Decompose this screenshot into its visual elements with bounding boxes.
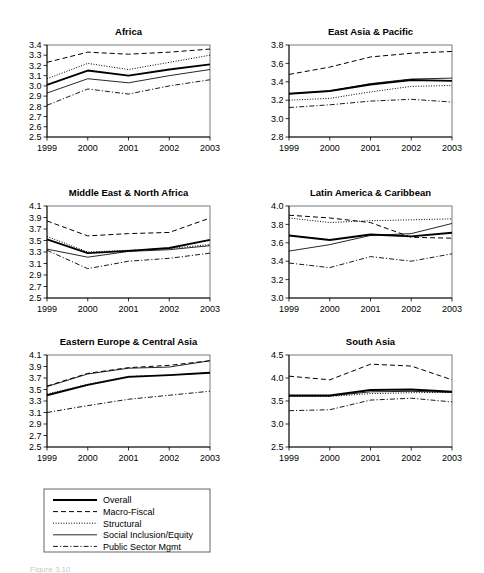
x-tick-label: 1999	[37, 453, 57, 463]
y-tick-label: 3.8	[271, 40, 284, 50]
y-tick-label: 3.7	[29, 373, 42, 383]
plot-frame	[289, 206, 452, 298]
x-tick-label: 2003	[200, 453, 220, 463]
y-tick-label: 4.0	[271, 373, 284, 383]
plot-frame	[47, 355, 210, 447]
y-tick-label: 2.9	[29, 419, 42, 429]
x-tick-label: 2000	[320, 304, 340, 314]
y-tick-label: 2.7	[29, 112, 42, 122]
chart-panel-3: Middle East & North Africa2.52.72.93.13.…	[29, 187, 220, 314]
y-tick-label: 3.2	[271, 275, 284, 285]
panel-title: Africa	[115, 26, 143, 37]
plot-frame	[47, 45, 210, 137]
y-tick-label: 2.7	[29, 431, 42, 441]
series-public-sector-mgmt	[289, 398, 452, 410]
chart-panel-1: Africa2.52.62.72.82.93.03.13.23.33.41999…	[29, 26, 220, 153]
legend-label-4: Social Inclusion/Equity	[103, 530, 194, 540]
y-tick-label: 3.6	[271, 59, 284, 69]
chart-panel-5: Eastern Europe & Central Asia2.52.72.93.…	[29, 336, 220, 463]
y-tick-label: 2.5	[29, 132, 42, 142]
y-tick-label: 4.0	[271, 201, 284, 211]
x-tick-label: 2001	[118, 143, 138, 153]
legend-label-5: Public Sector Mgmt	[103, 542, 182, 552]
y-tick-label: 3.2	[271, 95, 284, 105]
y-tick-label: 3.1	[29, 259, 42, 269]
y-tick-label: 3.3	[29, 50, 42, 60]
y-tick-label: 3.5	[271, 396, 284, 406]
series-macro-fiscal	[47, 49, 210, 62]
x-tick-label: 2000	[320, 453, 340, 463]
y-tick-label: 3.5	[29, 236, 42, 246]
y-tick-label: 4.1	[29, 201, 42, 211]
y-tick-label: 2.9	[29, 91, 42, 101]
series-overall	[289, 233, 452, 240]
y-tick-label: 2.8	[271, 132, 284, 142]
x-tick-label: 2002	[401, 453, 421, 463]
x-tick-label: 2001	[118, 453, 138, 463]
y-tick-label: 3.0	[271, 293, 284, 303]
x-tick-label: 1999	[279, 304, 299, 314]
panel-title: Middle East & North Africa	[69, 187, 189, 198]
x-tick-label: 2001	[118, 304, 138, 314]
figure-caption: Figure 3.10	[30, 565, 71, 573]
y-tick-label: 3.5	[29, 385, 42, 395]
series-macro-fiscal	[47, 218, 210, 236]
y-tick-label: 2.5	[29, 293, 42, 303]
y-tick-label: 3.3	[29, 247, 42, 257]
y-tick-label: 3.6	[271, 238, 284, 248]
x-tick-label: 2002	[159, 453, 179, 463]
x-tick-label: 2000	[78, 304, 98, 314]
y-tick-label: 3.7	[29, 224, 42, 234]
panel-title: Latin America & Caribbean	[310, 187, 431, 198]
y-tick-label: 3.4	[271, 256, 284, 266]
panel-title: Eastern Europe & Central Asia	[60, 336, 198, 347]
x-tick-label: 2001	[360, 143, 380, 153]
series-overall	[47, 64, 210, 84]
y-tick-label: 2.5	[271, 442, 284, 452]
y-tick-label: 2.9	[29, 270, 42, 280]
y-tick-label: 3.9	[29, 213, 42, 223]
x-tick-label: 2002	[159, 143, 179, 153]
x-tick-label: 2003	[442, 143, 462, 153]
y-tick-label: 3.0	[271, 419, 284, 429]
y-tick-label: 3.3	[29, 396, 42, 406]
x-tick-label: 2001	[360, 453, 380, 463]
x-tick-label: 2002	[401, 143, 421, 153]
series-macro-fiscal	[289, 364, 452, 380]
series-structural	[289, 218, 452, 223]
legend-label-2: Macro-Fiscal	[103, 507, 155, 517]
series-macro-fiscal	[289, 51, 452, 74]
series-public-sector-mgmt	[47, 391, 210, 412]
y-tick-label: 3.9	[29, 362, 42, 372]
x-tick-label: 2002	[159, 304, 179, 314]
chart-panel-4: Latin America & Caribbean3.03.23.43.63.8…	[271, 187, 462, 314]
x-tick-label: 2003	[200, 143, 220, 153]
legend: OverallMacro-FiscalStructuralSocial Incl…	[44, 489, 210, 552]
x-tick-label: 2003	[442, 453, 462, 463]
x-tick-label: 2000	[320, 143, 340, 153]
y-tick-label: 4.1	[29, 350, 42, 360]
series-structural	[47, 373, 210, 394]
series-public-sector-mgmt	[289, 254, 452, 268]
plot-frame	[289, 45, 452, 137]
y-tick-label: 3.1	[29, 71, 42, 81]
x-tick-label: 2002	[401, 304, 421, 314]
x-tick-label: 1999	[37, 304, 57, 314]
figure-container: Africa2.52.62.72.82.93.03.13.23.33.41999…	[0, 0, 484, 573]
x-tick-label: 2003	[442, 304, 462, 314]
y-tick-label: 3.8	[271, 220, 284, 230]
plot-frame	[289, 355, 452, 447]
legend-label-3: Structural	[103, 519, 142, 529]
series-public-sector-mgmt	[47, 250, 210, 268]
plot-frame	[47, 206, 210, 298]
x-tick-label: 2000	[78, 453, 98, 463]
chart-panel-2: East Asia & Pacific2.83.03.23.43.63.8199…	[271, 26, 462, 153]
y-tick-label: 3.4	[29, 40, 42, 50]
x-tick-label: 2001	[360, 304, 380, 314]
y-tick-label: 3.2	[29, 61, 42, 71]
series-social-inclusion-equity	[47, 70, 210, 94]
multi-panel-line-chart: Africa2.52.62.72.82.93.03.13.23.33.41999…	[0, 0, 484, 573]
y-tick-label: 3.1	[29, 408, 42, 418]
legend-label-1: Overall	[103, 495, 132, 505]
y-tick-label: 2.7	[29, 282, 42, 292]
